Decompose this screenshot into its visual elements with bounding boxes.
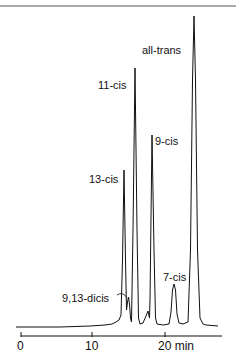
label-7-cis: 7-cis xyxy=(163,271,187,283)
label-11-cis: 11-cis xyxy=(98,79,127,91)
label-9-13-dicis: 9,13-dicis xyxy=(62,292,110,304)
chromatogram-chart: 0 10 20 min all-trans 11-cis 9-cis 13-ci… xyxy=(0,0,236,354)
tick-label-20: 20 min xyxy=(158,339,194,353)
tick-label-10: 10 xyxy=(85,339,99,353)
chromatogram-trace xyxy=(16,16,218,327)
label-9-cis: 9-cis xyxy=(155,135,179,147)
label-13-cis: 13-cis xyxy=(89,173,119,185)
tick-label-0: 0 xyxy=(17,339,24,353)
label-all-trans: all-trans xyxy=(142,44,182,56)
